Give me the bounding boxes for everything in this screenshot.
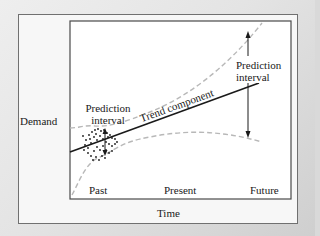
x-tick-future: Future: [250, 184, 279, 196]
right-prediction-interval-label: Prediction interval: [235, 58, 282, 83]
left-interval-line1: Prediction: [78, 102, 138, 114]
right-interval-line2: interval: [236, 71, 281, 83]
left-interval-line2: interval: [78, 114, 138, 126]
x-axis-label: Time: [157, 207, 180, 219]
right-interval-line1: Prediction: [236, 59, 281, 71]
left-prediction-interval-label: Prediction interval: [78, 102, 138, 126]
x-tick-past: Past: [89, 184, 107, 196]
y-axis-label: Demand: [20, 115, 57, 127]
x-tick-present: Present: [164, 184, 196, 196]
